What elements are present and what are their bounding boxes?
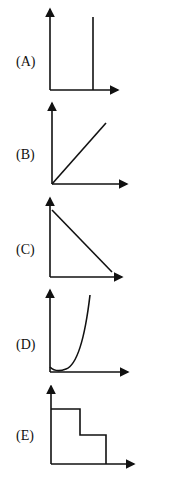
graph-d [0,285,172,385]
option-b-panel: (B) [0,95,172,190]
curve-step-function [51,409,106,464]
graph-e [0,385,172,492]
graph-b [0,95,172,190]
option-a-panel: (A) [0,0,172,95]
curve-parabola [50,295,90,371]
option-c-panel: (C) [0,190,172,285]
option-d-panel: (D) [0,285,172,385]
graph-a [0,0,172,95]
curve-increasing-line [52,123,106,184]
option-e-panel: (E) [0,385,172,492]
graph-c [0,190,172,285]
curve-decreasing-line [52,210,112,272]
